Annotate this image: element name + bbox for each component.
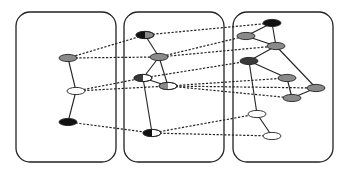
node-R8 xyxy=(248,110,266,117)
solid-edge xyxy=(143,78,152,133)
node-C1 xyxy=(136,31,154,38)
dashed-edge xyxy=(68,35,145,58)
node-R5 xyxy=(278,74,296,81)
multi-layer-graph-diagram xyxy=(0,0,347,170)
node-L1 xyxy=(59,54,77,61)
dashed-edge xyxy=(152,114,257,133)
nodes xyxy=(59,19,325,139)
node-R4 xyxy=(240,57,258,64)
dashed-edge xyxy=(76,78,143,91)
dashed-edge xyxy=(168,86,316,88)
node-C3 xyxy=(134,74,152,81)
solid-edge xyxy=(68,58,76,91)
solid-edge xyxy=(276,46,316,88)
dashed-edge xyxy=(152,133,272,136)
node-R7 xyxy=(283,94,301,101)
solid-edge xyxy=(68,91,76,122)
dashed-edge xyxy=(168,78,287,86)
dashed-edge xyxy=(68,57,159,58)
dashed-edge xyxy=(145,23,272,35)
node-C4 xyxy=(159,82,177,89)
node-C2 xyxy=(150,53,168,60)
node-L2 xyxy=(67,87,85,94)
node-R3 xyxy=(267,42,285,49)
node-L3 xyxy=(59,118,77,125)
dashed-edge xyxy=(76,86,168,91)
node-R2 xyxy=(237,32,255,39)
solid-edge xyxy=(159,57,168,86)
dashed-edge xyxy=(168,86,292,98)
node-R9 xyxy=(263,132,281,139)
node-R6 xyxy=(307,84,325,91)
node-C5 xyxy=(143,129,161,136)
dashed-edge xyxy=(68,122,152,133)
node-R1 xyxy=(263,19,281,26)
panel-1 xyxy=(16,12,116,162)
